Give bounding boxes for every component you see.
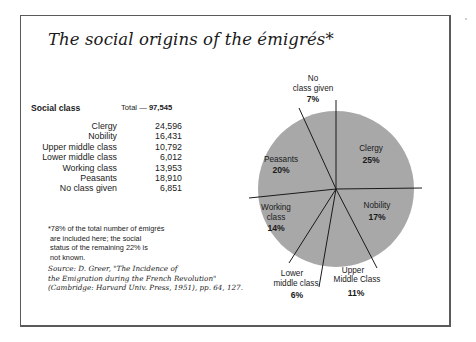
label-clergy: Clergy [359, 144, 384, 153]
label-no-class-line2: class given [293, 84, 334, 93]
label-nobility: Nobility [364, 201, 392, 210]
label-upper-line2: Middle Class [334, 275, 381, 284]
pct-nobility: 17% [368, 212, 386, 222]
label-working-line2: class [267, 213, 286, 222]
pct-upper: 11% [348, 288, 365, 298]
pct-lower: 6% [291, 290, 304, 300]
pct-working: 14% [267, 223, 285, 233]
label-lower-line2: middle class [273, 279, 318, 288]
pie-chart: No class given 7% Clergy 25% Nobility 17… [0, 0, 476, 342]
pct-no-class: 7% [307, 94, 320, 104]
pct-clergy: 25% [362, 155, 380, 165]
label-working-line1: Working [261, 203, 291, 212]
label-no-class-line1: No [308, 74, 319, 83]
label-peasants: Peasants [264, 155, 298, 164]
label-lower-line1: Lower [281, 269, 304, 278]
label-upper-line1: Upper [342, 266, 365, 275]
pct-peasants: 20% [272, 165, 290, 175]
